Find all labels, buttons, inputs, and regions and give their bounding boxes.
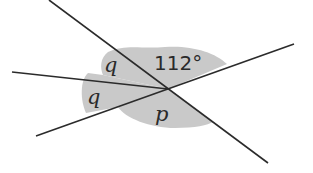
- label-q-left: q: [87, 85, 100, 109]
- angle-diagram: q q 112° p: [0, 0, 313, 173]
- label-q-top: q: [104, 53, 117, 77]
- label-p: p: [155, 102, 168, 126]
- label-angle-112: 112°: [154, 51, 202, 75]
- line-diagonal-steep: [49, 0, 268, 163]
